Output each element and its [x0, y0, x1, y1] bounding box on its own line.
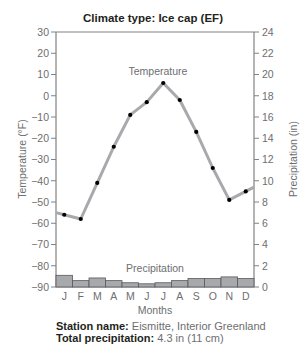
x-tick: D	[242, 290, 250, 302]
y-tick-left: −40	[31, 175, 49, 187]
y-tick-right: 6	[262, 217, 268, 229]
x-tick: N	[225, 290, 233, 302]
y-axis-label-right: Precipitation (in)	[287, 121, 299, 197]
station-name-label: Station name:	[56, 320, 129, 332]
y-tick-left: −30	[31, 153, 49, 165]
total-precipitation: Total precipitation: 4.3 in (11 cm)	[56, 332, 224, 345]
y-tick-right: 0	[262, 281, 268, 293]
precipitation-bar	[106, 281, 123, 287]
y-tick-left: −90	[31, 281, 49, 293]
y-tick-right: 22	[262, 47, 274, 59]
y-tick-left: −70	[31, 238, 49, 250]
y-tick-left: 0	[43, 90, 49, 102]
y-tick-right: 8	[262, 196, 268, 208]
precipitation-bar	[56, 275, 73, 287]
y-tick-left: 20	[37, 47, 49, 59]
y-tick-right: 10	[262, 175, 274, 187]
temperature-line	[56, 81, 254, 221]
precipitation-bar	[89, 278, 106, 287]
temperature-point	[211, 166, 215, 170]
y-tick-right: 18	[262, 90, 274, 102]
x-tick: J	[161, 290, 166, 302]
y-tick-left: −60	[31, 217, 49, 229]
precipitation-bar	[238, 279, 255, 288]
x-tick: A	[110, 290, 117, 302]
y-tick-right: 4	[262, 238, 268, 250]
y-tick-right: 20	[262, 68, 274, 80]
x-tick: F	[78, 290, 84, 302]
temperature-point	[62, 213, 66, 217]
x-tick: S	[193, 290, 200, 302]
x-tick: M	[93, 290, 102, 302]
temperature-point	[194, 130, 198, 134]
y-tick-left: −20	[31, 132, 49, 144]
precipitation-bar	[188, 279, 205, 288]
precipitation-bars	[56, 275, 254, 287]
x-tick: J	[62, 290, 67, 302]
y-tick-left: 30	[37, 26, 49, 38]
temperature-polyline	[56, 83, 254, 219]
y-axis-label-left: Temperature (°F)	[16, 119, 28, 198]
precipitation-bar	[155, 283, 172, 287]
temperature-point	[227, 198, 231, 202]
precipitation-bar	[205, 279, 222, 288]
temperature-series-label: Temperature	[129, 65, 188, 77]
precipitation-bar	[139, 284, 156, 287]
x-tick: O	[209, 290, 217, 302]
precipitation-bar	[73, 281, 90, 287]
precipitation-series-label: Precipitation	[126, 262, 184, 274]
precipitation-bar	[122, 283, 139, 287]
y-tick-left: −10	[31, 111, 49, 123]
precipitation-bar	[172, 281, 189, 287]
x-axis-label: Months	[138, 304, 172, 316]
temperature-point	[128, 113, 132, 117]
total-precipitation-value: 4.3 in (11 cm)	[157, 332, 223, 344]
y-tick-left: 10	[37, 68, 49, 80]
total-precipitation-label: Total precipitation:	[56, 332, 154, 344]
temperature-point	[145, 100, 149, 104]
temperature-point	[244, 189, 248, 193]
x-tick: J	[144, 290, 149, 302]
chart-title: Climate type: Ice cap (EF)	[83, 12, 223, 24]
temperature-point	[161, 81, 165, 85]
y-tick-right: 14	[262, 132, 274, 144]
y-tick-right: 2	[262, 260, 268, 272]
temperature-point	[95, 181, 99, 185]
temperature-point	[79, 217, 83, 221]
y-tick-right: 24	[262, 26, 274, 38]
station-name-value: Eismitte, Interior Greenland	[132, 320, 266, 332]
y-tick-right: 12	[262, 153, 274, 165]
y-tick-right: 16	[262, 111, 274, 123]
temperature-point	[178, 98, 182, 102]
temperature-point	[112, 145, 116, 149]
y-tick-left: −50	[31, 196, 49, 208]
climate-chart: Climate type: Ice cap (EF) 3020100−10−20…	[0, 0, 303, 346]
y-tick-left: −80	[31, 260, 49, 272]
x-tick: A	[176, 290, 183, 302]
precipitation-bar	[221, 277, 238, 287]
x-tick: M	[126, 290, 135, 302]
